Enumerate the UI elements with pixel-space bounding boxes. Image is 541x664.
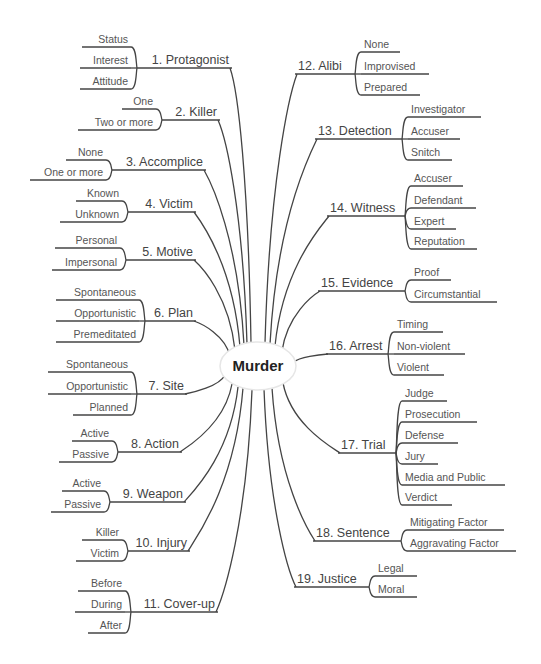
leaf-opportunistic[interactable]: Opportunistic bbox=[48, 380, 137, 394]
leaf-label: Planned bbox=[89, 401, 128, 413]
trunk-connector bbox=[184, 387, 238, 502]
leaf-victim[interactable]: Victim bbox=[76, 547, 128, 561]
leaf-label: Impersonal bbox=[65, 256, 117, 268]
trunk-connector bbox=[265, 74, 297, 343]
leaf-attitude[interactable]: Attitude bbox=[80, 68, 137, 89]
leaf-label: Investigator bbox=[411, 103, 466, 115]
leaf-connector bbox=[122, 540, 128, 551]
leaf-snitch[interactable]: Snitch bbox=[402, 139, 452, 160]
leaf-unknown[interactable]: Unknown bbox=[60, 208, 128, 222]
branch-trial[interactable]: 17. TrialJudgeProsecutionDefenseJuryMedi… bbox=[338, 387, 505, 505]
leaf-violent[interactable]: Violent bbox=[388, 354, 444, 375]
leaf-label: Mitigating Factor bbox=[410, 516, 488, 528]
leaf-label: Judge bbox=[405, 387, 434, 399]
leaf-improvised[interactable]: Improvised bbox=[355, 60, 429, 74]
leaf-connector bbox=[355, 52, 361, 74]
trunk-connector bbox=[188, 388, 243, 551]
branch-arrest[interactable]: 16. ArrestTimingNon-violentViolent bbox=[326, 318, 465, 375]
branch-killer[interactable]: 2. KillerOneTwo or more bbox=[78, 95, 220, 130]
branch-label: 15. Evidence bbox=[321, 276, 393, 290]
branch-label: 14. Witness bbox=[330, 201, 395, 215]
leaf-label: Prosecution bbox=[405, 408, 461, 420]
branch-site[interactable]: 7. SiteSpontaneousOpportunisticPlanned bbox=[48, 358, 187, 415]
branch-plan[interactable]: 6. PlanSpontaneousOpportunisticPremedita… bbox=[56, 286, 196, 342]
branch-action[interactable]: 8. ActionActivePassive bbox=[59, 427, 182, 462]
branch-label: 2. Killer bbox=[175, 105, 217, 119]
branch-cover-up[interactable]: 11. Cover-upBeforeDuringAfter bbox=[75, 577, 218, 633]
branch-victim[interactable]: 4. VictimKnownUnknown bbox=[60, 187, 196, 222]
leaf-connector bbox=[104, 491, 110, 502]
branch-label: 13. Detection bbox=[318, 124, 392, 138]
leaf-label: Legal bbox=[378, 562, 404, 574]
trunk-connector bbox=[272, 388, 315, 541]
branch-evidence[interactable]: 15. EvidenceProofCircumstantial bbox=[318, 266, 497, 302]
leaf-label: Personal bbox=[76, 234, 117, 246]
leaf-connector bbox=[156, 120, 162, 130]
leaf-label: Two or more bbox=[95, 116, 154, 128]
branch-weapon[interactable]: 9. WeaponActivePassive bbox=[51, 477, 186, 512]
leaf-expert[interactable]: Expert bbox=[405, 215, 456, 229]
leaf-prepared[interactable]: Prepared bbox=[355, 74, 420, 95]
branch-alibi[interactable]: 12. AlibiNoneImprovisedPrepared bbox=[295, 38, 429, 95]
leaf-planned[interactable]: Planned bbox=[73, 394, 137, 415]
leaf-label: Unknown bbox=[75, 208, 119, 220]
leaf-label: Spontaneous bbox=[74, 286, 136, 298]
leaf-label: After bbox=[100, 619, 123, 631]
leaf-label: One or more bbox=[44, 166, 103, 178]
leaf-label: Before bbox=[91, 577, 122, 589]
branch-accomplice[interactable]: 3. AccompliceNoneOne or more bbox=[30, 146, 206, 180]
branch-protagonist[interactable]: 1. ProtagonistStatusInterestAttitude bbox=[80, 33, 232, 89]
branch-label: 16. Arrest bbox=[329, 339, 383, 353]
leaf-label: Killer bbox=[96, 526, 120, 538]
leaf-after[interactable]: After bbox=[88, 612, 131, 633]
leaf-passive[interactable]: Passive bbox=[51, 498, 110, 512]
trunk-connector bbox=[185, 375, 225, 394]
leaf-jury[interactable]: Jury bbox=[396, 450, 438, 464]
leaf-connector bbox=[401, 530, 407, 541]
leaf-two-or-more[interactable]: Two or more bbox=[78, 116, 162, 130]
leaf-label: Active bbox=[72, 477, 101, 489]
branch-justice[interactable]: 19. JusticeLegalMoral bbox=[294, 562, 417, 597]
branch-sentence[interactable]: 18. SentenceMitigating FactorAggravating… bbox=[313, 516, 516, 551]
murder-mind-map: 1. ProtagonistStatusInterestAttitude2. K… bbox=[0, 0, 541, 664]
leaf-during[interactable]: During bbox=[75, 598, 131, 612]
leaf-label: Media and Public bbox=[405, 471, 486, 483]
branch-label: 6. Plan bbox=[154, 306, 193, 320]
center-node-label: Murder bbox=[233, 357, 284, 374]
leaf-label: Victim bbox=[91, 547, 120, 559]
leaf-connector bbox=[106, 170, 112, 180]
branch-motive[interactable]: 5. MotivePersonalImpersonal bbox=[52, 234, 196, 270]
leaf-interest[interactable]: Interest bbox=[80, 54, 137, 68]
leaf-connector bbox=[139, 321, 145, 342]
branch-injury[interactable]: 10. InjuryKillerVictim bbox=[76, 526, 190, 561]
leaf-moral[interactable]: Moral bbox=[369, 583, 417, 597]
leaf-connector bbox=[131, 47, 137, 68]
branch-detection[interactable]: 13. DetectionInvestigatorAccuserSnitch bbox=[315, 103, 481, 160]
leaf-impersonal[interactable]: Impersonal bbox=[52, 256, 126, 270]
leaf-connector bbox=[139, 300, 145, 321]
leaf-non-violent[interactable]: Non-violent bbox=[388, 340, 465, 354]
leaf-circumstantial[interactable]: Circumstantial bbox=[405, 288, 497, 302]
leaf-label: Attitude bbox=[92, 75, 128, 87]
leaf-defendant[interactable]: Defendant bbox=[405, 194, 476, 216]
leaf-label: Aggravating Factor bbox=[410, 537, 499, 549]
leaf-passive[interactable]: Passive bbox=[59, 448, 118, 462]
leaf-label: One bbox=[133, 95, 153, 107]
branch-label: 3. Accomplice bbox=[126, 155, 203, 169]
leaf-aggravating-factor[interactable]: Aggravating Factor bbox=[401, 537, 516, 551]
branch-label: 10. Injury bbox=[136, 536, 188, 550]
leaf-premeditated[interactable]: Premeditated bbox=[56, 321, 145, 342]
leaf-connector bbox=[405, 291, 411, 302]
center-node[interactable]: Murder bbox=[220, 342, 296, 390]
leaf-one-or-more[interactable]: One or more bbox=[30, 166, 112, 180]
branch-witness[interactable]: 14. WitnessAccuserDefendantExpertReputat… bbox=[327, 172, 477, 249]
leaf-label: Passive bbox=[72, 448, 109, 460]
leaf-label: Prepared bbox=[364, 81, 407, 93]
leaf-label: Snitch bbox=[411, 146, 440, 158]
leaf-connector bbox=[405, 216, 411, 249]
branch-label: 4. Victim bbox=[145, 197, 193, 211]
branch-label: 1. Protagonist bbox=[152, 53, 230, 67]
leaf-label: Accuser bbox=[414, 172, 452, 184]
leaf-opportunistic[interactable]: Opportunistic bbox=[56, 307, 145, 321]
leaf-accuser[interactable]: Accuser bbox=[402, 125, 460, 139]
